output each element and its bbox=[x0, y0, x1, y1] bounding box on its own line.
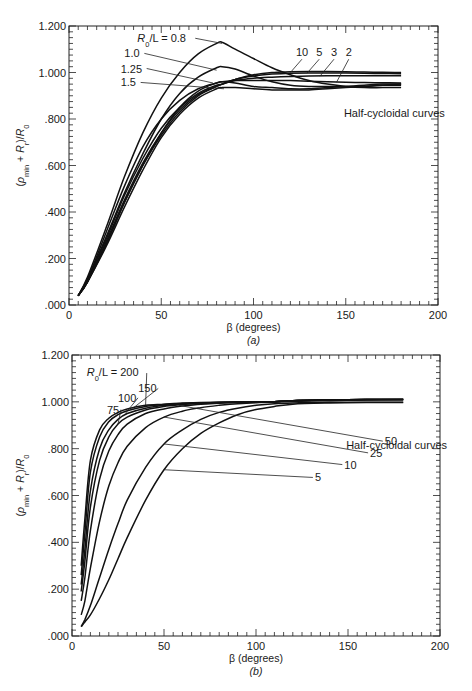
curve-label: 1.0 bbox=[124, 47, 139, 59]
curve-label: 3 bbox=[331, 46, 337, 58]
curve-label: R0/L = 200 bbox=[87, 366, 139, 383]
curve-label: 100 bbox=[118, 392, 136, 404]
chart-panel-a: 050100150200.000.200.400.600.8001.0001.2… bbox=[14, 20, 447, 346]
curve-label: 10 bbox=[344, 459, 356, 471]
x-tick-label: 50 bbox=[155, 309, 167, 321]
curve-label: R0/L = 0.8 bbox=[137, 32, 186, 49]
curve-label: 150 bbox=[138, 382, 156, 394]
curve-label: 5 bbox=[315, 471, 321, 483]
curve-label: 1.25 bbox=[121, 63, 142, 75]
plot-note: Half-cycloidal curves bbox=[346, 439, 447, 451]
leader-line bbox=[144, 53, 216, 70]
annotations: R0/L = 200150100755025105Half-cycloidal … bbox=[87, 366, 448, 483]
x-axis-label: β (degrees) bbox=[227, 321, 281, 333]
panel-caption: (b) bbox=[250, 665, 263, 677]
curves bbox=[81, 399, 403, 626]
plot-note: Half-cycloidal curves bbox=[344, 107, 445, 119]
curve-r0l-150 bbox=[81, 399, 403, 575]
y-tick-label: 1.000 bbox=[41, 396, 69, 408]
y-tick-label: .800 bbox=[48, 443, 69, 455]
y-tick-label: .200 bbox=[45, 253, 66, 265]
x-tick-label: 150 bbox=[339, 640, 357, 652]
curve-label: 10 bbox=[296, 46, 308, 58]
x-tick-label: 100 bbox=[247, 640, 265, 652]
chart-panel-b: 050100150200.000.200.400.600.8001.0001.2… bbox=[14, 349, 449, 677]
x-axis-label: β (degrees) bbox=[229, 652, 283, 664]
curve-label: 1.5 bbox=[121, 76, 136, 88]
curve-label: 2 bbox=[346, 46, 352, 58]
y-tick-label: .800 bbox=[45, 113, 66, 125]
y-tick-label: 1.200 bbox=[41, 349, 69, 361]
x-tick-label: 150 bbox=[337, 309, 355, 321]
y-axis-label: (ρmin + Rr)/R0 bbox=[14, 125, 31, 187]
leader-line bbox=[290, 59, 302, 72]
leader-line bbox=[179, 405, 383, 441]
leader-line bbox=[164, 444, 342, 465]
curve-r0l-10 bbox=[78, 72, 401, 296]
y-tick-label: .000 bbox=[48, 630, 69, 642]
y-axis-label: (ρmin + Rr)/R0 bbox=[14, 455, 31, 517]
curve-label: 75 bbox=[107, 404, 119, 416]
curve-r0l-200 bbox=[81, 399, 403, 565]
y-tick-label: 1.000 bbox=[38, 67, 66, 79]
y-tick-label: .000 bbox=[45, 299, 66, 311]
leader-line bbox=[337, 59, 349, 82]
y-tick-label: .600 bbox=[45, 160, 66, 172]
y-tick-label: .400 bbox=[48, 536, 69, 548]
curve-label: 5 bbox=[316, 46, 322, 58]
x-tick-label: 0 bbox=[69, 640, 75, 652]
leader-line bbox=[195, 38, 222, 43]
x-tick-label: 200 bbox=[429, 309, 447, 321]
x-tick-label: 200 bbox=[431, 640, 449, 652]
figure: 050100150200.000.200.400.600.8001.0001.2… bbox=[0, 0, 472, 691]
leader-line bbox=[147, 69, 213, 83]
x-tick-label: 100 bbox=[244, 309, 262, 321]
y-tick-label: 1.200 bbox=[38, 20, 66, 32]
x-tick-label: 50 bbox=[158, 640, 170, 652]
leader-line bbox=[164, 470, 313, 478]
y-tick-label: .400 bbox=[45, 206, 66, 218]
x-tick-label: 0 bbox=[66, 309, 72, 321]
y-tick-label: .200 bbox=[48, 583, 69, 595]
panel-caption: (a) bbox=[247, 334, 260, 346]
curve-r0l-25 bbox=[81, 400, 403, 615]
y-tick-label: .600 bbox=[48, 490, 69, 502]
curve-r0l-50 bbox=[81, 399, 403, 600]
curve-r0l-100 bbox=[81, 399, 403, 584]
